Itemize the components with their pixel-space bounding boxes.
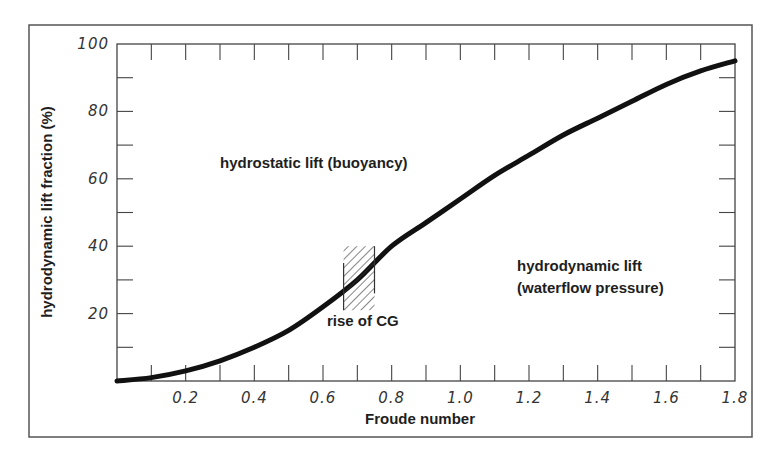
x-tick-label: 1.4 <box>584 389 611 407</box>
x-tick-label: 1.0 <box>447 389 474 407</box>
hydrodynamic-lift-label: hydrodynamic lift <box>517 257 642 274</box>
rise-of-cg-label: rise of CG <box>327 312 399 329</box>
lift-curve <box>117 61 735 381</box>
froude-lift-chart: 0.20.40.60.81.01.21.41.61.820406080100 h… <box>0 0 772 462</box>
x-axis-title: Froude number <box>365 410 475 427</box>
x-tick-label: 0.4 <box>241 389 268 407</box>
rise-of-cg-region <box>344 246 375 310</box>
x-tick-label: 0.8 <box>378 389 405 407</box>
y-tick-label: 20 <box>88 305 109 323</box>
x-tick-label: 0.2 <box>172 389 199 407</box>
y-tick-label: 80 <box>88 102 109 120</box>
y-axis-title: hydrodynamic lift fraction (%) <box>38 106 55 318</box>
hydrostatic-lift-label: hydrostatic lift (buoyancy) <box>220 154 408 171</box>
waterflow-pressure-label: (waterflow pressure) <box>517 279 664 296</box>
y-tick-label: 100 <box>77 35 109 53</box>
x-tick-label: 0.6 <box>310 389 337 407</box>
x-tick-label: 1.6 <box>653 389 680 407</box>
y-tick-label: 40 <box>88 237 109 255</box>
outer-frame <box>29 25 752 437</box>
x-tick-label: 1.2 <box>516 389 543 407</box>
x-tick-label: 1.8 <box>722 389 749 407</box>
y-tick-label: 60 <box>88 170 109 188</box>
